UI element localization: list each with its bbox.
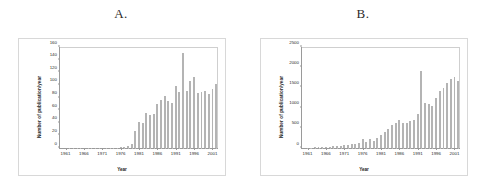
panel-b-y-tick-mark [300, 66, 302, 67]
bar [420, 71, 422, 148]
panel-b-x-tick-mark [436, 148, 437, 150]
bar [443, 88, 445, 148]
panel-b-chart-frame: Number of publication/year Year 05001000… [260, 38, 468, 176]
panel-a-x-tick-mark [84, 148, 85, 150]
panel-a-x-tick-minor [187, 148, 188, 149]
bar [186, 91, 188, 148]
panel-b-x-tick-minor [447, 148, 448, 149]
panel-a-x-tick-minor [165, 148, 166, 149]
panel-a-plot-area: 0204060801001201401601961196619711976198… [59, 47, 218, 149]
panel-a-x-tick-mark [194, 148, 195, 150]
bar [193, 77, 195, 148]
panel-b-x-tick-minor [410, 148, 411, 149]
panel-a-x-tick-mark [176, 148, 177, 150]
figure-container: A. Number of publication/year Year 02040… [0, 0, 484, 191]
panel-a-y-tick-label: 40 [52, 116, 60, 120]
panel-b-x-tick-mark [308, 148, 309, 150]
panel-a-y-tick-mark [58, 134, 60, 135]
bar [424, 103, 426, 148]
panel-a-letter: A. [0, 6, 242, 22]
bar [457, 81, 459, 148]
bar [369, 139, 371, 148]
panel-b-x-tick-minor [407, 148, 408, 149]
bar [450, 79, 452, 148]
bar [175, 86, 177, 148]
panel-b-x-tick-minor [337, 148, 338, 149]
panel-a-x-tick-minor [113, 148, 114, 149]
bar [384, 132, 386, 148]
bar [402, 123, 404, 148]
bar [431, 106, 433, 148]
panel-a-x-tick-minor [183, 148, 184, 149]
bar [387, 129, 389, 148]
bar [156, 104, 158, 148]
panel-b-x-tick-minor [443, 148, 444, 149]
bar [189, 81, 191, 148]
panel-b-y-tick-label: 0 [297, 141, 302, 145]
bar [171, 103, 173, 148]
bar [208, 94, 210, 148]
panel-a-x-axis-title: Year [19, 167, 225, 172]
panel-b-x-tick-minor [352, 148, 353, 149]
bar [373, 141, 375, 148]
panel-a-x-tick-mark [139, 148, 140, 150]
panel-b-x-tick-minor [425, 148, 426, 149]
panel-a-chart-frame: Number of publication/year Year 02040608… [18, 38, 226, 176]
bar [406, 123, 408, 148]
panel-a-y-tick-label: 80 [52, 91, 60, 95]
bar [182, 53, 184, 148]
panel-a-y-tick-mark [58, 96, 60, 97]
bar [362, 139, 364, 148]
panel-b-y-tick-mark [300, 86, 302, 87]
panel-a-x-tick-mark [157, 148, 158, 150]
bar [201, 92, 203, 148]
panel-b: B. Number of publication/year Year 05001… [242, 0, 484, 191]
bar [212, 89, 214, 148]
panel-b-x-axis-title: Year [261, 167, 467, 172]
panel-b-bar-series [302, 47, 460, 148]
panel-a: A. Number of publication/year Year 02040… [0, 0, 242, 191]
panel-a-y-tick-label: 60 [52, 104, 60, 108]
bar [391, 125, 393, 148]
panel-b-y-tick-mark [300, 46, 302, 47]
panel-b-x-tick-mark [326, 148, 327, 150]
panel-b-x-tick-mark [418, 148, 419, 150]
panel-b-x-tick-minor [355, 148, 356, 149]
bar [454, 77, 456, 148]
panel-a-y-tick-mark [58, 121, 60, 122]
bar [204, 91, 206, 148]
panel-b-y-tick-mark [300, 106, 302, 107]
panel-b-y-tick-label: 1000 [289, 101, 302, 105]
panel-a-x-tick-mark [121, 148, 122, 150]
panel-a-x-tick-minor [205, 148, 206, 149]
bar [395, 123, 397, 148]
bar [446, 83, 448, 148]
bar [417, 114, 419, 148]
panel-a-x-tick-minor [95, 148, 96, 149]
panel-a-x-tick-minor [132, 148, 133, 149]
panel-b-y-axis-title: Number of publication/year [279, 61, 284, 153]
panel-b-x-tick-mark [454, 148, 455, 150]
panel-a-y-tick-label: 100 [50, 78, 60, 82]
panel-b-x-tick-minor [392, 148, 393, 149]
bar [160, 100, 162, 148]
bar [153, 114, 155, 148]
bar [413, 120, 415, 148]
bar [164, 96, 166, 148]
panel-b-y-tick-mark [300, 126, 302, 127]
panel-b-x-tick-mark [363, 148, 364, 150]
panel-a-y-tick-mark [58, 58, 60, 59]
bar [134, 131, 136, 148]
bar [138, 122, 140, 149]
panel-a-y-tick-label: 120 [50, 66, 60, 70]
bar [167, 101, 169, 148]
panel-a-y-tick-mark [58, 83, 60, 84]
panel-b-x-tick-minor [315, 148, 316, 149]
panel-b-x-tick-minor [374, 148, 375, 149]
panel-b-x-tick-minor [388, 148, 389, 149]
panel-a-x-tick-minor [77, 148, 78, 149]
panel-b-y-tick-label: 1500 [289, 81, 302, 85]
bar [409, 121, 411, 148]
panel-a-y-tick-mark [58, 46, 60, 47]
bar [142, 123, 144, 148]
